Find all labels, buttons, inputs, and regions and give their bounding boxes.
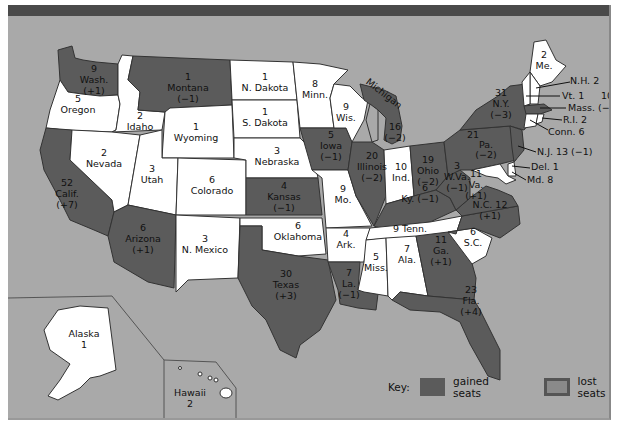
svg-text:3: 3 xyxy=(202,233,208,244)
label-vt: Vt. 1 xyxy=(562,90,584,101)
svg-text:1: 1 xyxy=(262,106,268,117)
svg-text:5: 5 xyxy=(328,129,334,140)
legend-gained-label: gained seats xyxy=(453,375,514,399)
svg-text:1: 1 xyxy=(262,71,268,82)
label-ct: Conn. 6 xyxy=(548,126,585,137)
svg-text:Oregon: Oregon xyxy=(61,104,96,115)
svg-text:N. Dakota: N. Dakota xyxy=(242,82,289,93)
svg-text:(+1): (+1) xyxy=(465,190,486,201)
svg-text:6: 6 xyxy=(470,226,476,237)
svg-text:20: 20 xyxy=(366,150,378,161)
svg-text:Ky. (−1): Ky. (−1) xyxy=(401,193,438,204)
svg-text:Montana: Montana xyxy=(167,82,208,93)
svg-text:30: 30 xyxy=(280,268,292,279)
svg-text:Colorado: Colorado xyxy=(191,185,234,196)
svg-text:Wis.: Wis. xyxy=(336,112,356,123)
svg-text:Wyoming: Wyoming xyxy=(174,132,219,143)
label-ri: R.I. 2 xyxy=(563,114,587,125)
hawaii-island xyxy=(198,372,202,376)
legend-key-label: Key: xyxy=(388,381,410,393)
svg-text:31: 31 xyxy=(495,87,507,98)
legend: Key: gained seats lost seats xyxy=(388,375,623,399)
svg-text:2: 2 xyxy=(101,147,107,158)
svg-text:6: 6 xyxy=(295,220,301,231)
label-nh: N.H. 2 xyxy=(570,75,599,86)
svg-text:52: 52 xyxy=(61,177,73,188)
svg-text:(+4): (+4) xyxy=(460,306,481,317)
svg-text:5: 5 xyxy=(373,251,379,262)
svg-text:(+3): (+3) xyxy=(275,290,296,301)
svg-text:Nebraska: Nebraska xyxy=(255,156,300,167)
svg-text:(−2): (−2) xyxy=(384,132,405,143)
lake-michigan xyxy=(366,104,378,142)
svg-text:1: 1 xyxy=(193,121,199,132)
svg-text:La.: La. xyxy=(342,278,356,289)
svg-text:Alaska: Alaska xyxy=(68,328,99,339)
svg-text:(−2): (−2) xyxy=(361,172,382,183)
svg-text:S.C.: S.C. xyxy=(464,237,483,248)
svg-text:6: 6 xyxy=(140,222,146,233)
svg-text:Utah: Utah xyxy=(141,174,164,185)
svg-text:2: 2 xyxy=(541,49,547,60)
svg-text:19: 19 xyxy=(422,154,434,165)
svg-text:(−1): (−1) xyxy=(446,182,467,193)
us-map: 9 Wash. (+1) 5 Oregon 52 Calif. (+7) 2 I… xyxy=(8,5,611,420)
svg-text:Va.: Va. xyxy=(469,179,484,190)
state-massachusetts[interactable] xyxy=(524,104,552,114)
svg-text:7: 7 xyxy=(346,267,352,278)
label-hi: Hawaii 2 xyxy=(174,387,206,409)
svg-text:Miss.: Miss. xyxy=(364,262,388,273)
svg-text:(+1): (+1) xyxy=(132,244,153,255)
label-ma: Mass. (−1) xyxy=(568,102,611,113)
svg-text:2: 2 xyxy=(187,398,193,409)
svg-text:Kansas: Kansas xyxy=(267,191,301,202)
svg-text:Nevada: Nevada xyxy=(86,158,122,169)
svg-text:7: 7 xyxy=(404,243,410,254)
svg-text:21: 21 xyxy=(467,129,479,140)
svg-text:23: 23 xyxy=(465,284,477,295)
svg-text:9: 9 xyxy=(340,183,346,194)
state-rhode-island[interactable] xyxy=(536,114,544,124)
hawaii-island xyxy=(179,367,182,370)
svg-text:Arizona: Arizona xyxy=(125,233,161,244)
svg-text:(−2): (−2) xyxy=(475,149,496,160)
label-tn: 9 Tenn. xyxy=(393,223,427,234)
svg-text:Ark.: Ark. xyxy=(337,239,356,250)
svg-text:S. Dakota: S. Dakota xyxy=(242,117,288,128)
legend-lost-swatch xyxy=(544,378,570,396)
svg-text:11: 11 xyxy=(470,168,482,179)
svg-text:N. Mexico: N. Mexico xyxy=(182,244,229,255)
svg-text:10: 10 xyxy=(395,161,407,172)
svg-text:1: 1 xyxy=(185,71,191,82)
hawaii-island xyxy=(208,376,212,380)
svg-text:Fla.: Fla. xyxy=(463,295,480,306)
state-florida[interactable] xyxy=(392,292,500,380)
svg-text:16: 16 xyxy=(389,121,401,132)
state-hawaii-big-island[interactable] xyxy=(220,388,232,398)
svg-text:6: 6 xyxy=(422,182,428,193)
label-nj: N.J. 13 (−1) xyxy=(537,146,593,157)
svg-text:Texas: Texas xyxy=(272,279,299,290)
state-alaska[interactable] xyxy=(44,306,116,400)
label-de: Del. 1 xyxy=(531,161,559,172)
svg-text:(−1): (−1) xyxy=(273,202,294,213)
svg-text:4: 4 xyxy=(343,228,349,239)
label-md: Md. 8 xyxy=(527,174,553,185)
svg-text:Idaho: Idaho xyxy=(127,121,154,132)
svg-text:Mo.: Mo. xyxy=(335,194,352,205)
svg-text:8: 8 xyxy=(312,78,318,89)
svg-text:1: 1 xyxy=(81,339,87,350)
svg-text:Ind.: Ind. xyxy=(392,172,410,183)
svg-text:(−3): (−3) xyxy=(490,109,511,120)
svg-text:(−1): (−1) xyxy=(177,93,198,104)
svg-text:3: 3 xyxy=(149,163,155,174)
label-ma-seats: 10 xyxy=(601,90,611,101)
svg-text:N.Y.: N.Y. xyxy=(492,98,509,109)
svg-text:(+7): (+7) xyxy=(56,199,77,210)
svg-text:Ga.: Ga. xyxy=(433,245,449,256)
svg-text:(+1): (+1) xyxy=(430,256,451,267)
state-vermont[interactable] xyxy=(522,72,530,106)
hawaii-island xyxy=(214,378,218,382)
svg-text:9: 9 xyxy=(343,101,349,112)
svg-text:W.Va.: W.Va. xyxy=(444,171,470,182)
